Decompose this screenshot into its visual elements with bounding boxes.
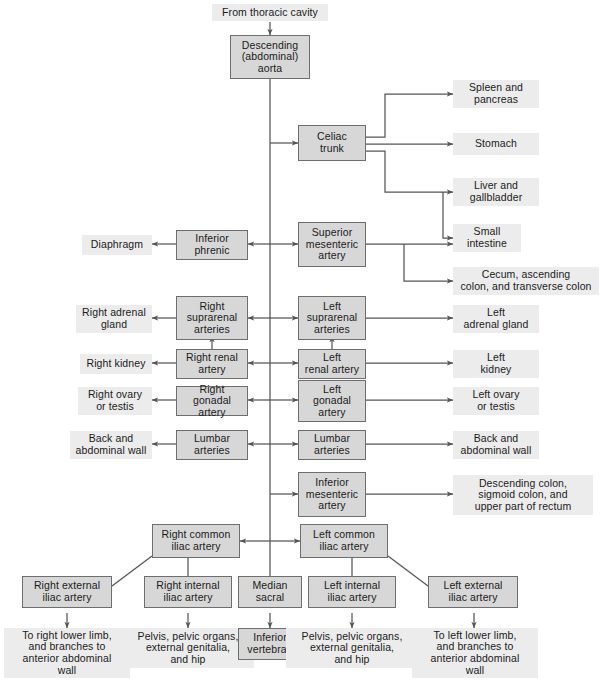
node-left-pelvis: Pelvis, pelvic organs, external genitali… (286, 628, 418, 668)
node-right-internal-iliac[interactable]: Right internal iliac artery (144, 576, 232, 608)
node-right-ovary-testis: Right ovary or testis (78, 387, 152, 415)
node-cecum-colon: Cecum, ascending colon, and transverse c… (453, 267, 599, 295)
node-right-lumbar-arteries[interactable]: Lumbar arteries (176, 430, 248, 460)
node-left-gonadal-artery[interactable]: Left gonadal artery (298, 380, 366, 422)
node-descending-sigmoid-rectum: Descending colon, sigmoid colon, and upp… (453, 475, 593, 515)
node-left-lower-limb: To left lower limb, and branches to ante… (412, 628, 538, 678)
node-celiac-trunk[interactable]: Celiac trunk (298, 125, 366, 161)
node-right-pelvis: Pelvis, pelvic organs, external genitali… (122, 628, 254, 668)
node-left-adrenal-gland: Left adrenal gland (453, 305, 539, 333)
node-right-suprarenal-arteries[interactable]: Right suprarenal arteries (176, 296, 248, 340)
node-right-gonadal-artery[interactable]: Right gonadal artery (176, 386, 248, 416)
node-left-ovary-testis: Left ovary or testis (453, 387, 539, 415)
node-median-sacral[interactable]: Median sacral (238, 576, 302, 608)
node-superior-mesenteric-artery[interactable]: Superior mesenteric artery (298, 222, 366, 267)
node-inferior-phrenic[interactable]: Inferior phrenic (176, 230, 248, 260)
node-descending-aorta[interactable]: Descending (abdominal) aorta (230, 35, 310, 79)
flowchart-canvas: From thoracic cavity Descending (abdomin… (0, 0, 603, 682)
node-left-suprarenal-arteries[interactable]: Left suprarenal arteries (298, 296, 366, 340)
node-left-kidney: Left kidney (453, 350, 539, 378)
node-left-lumbar-arteries[interactable]: Lumbar arteries (298, 430, 366, 460)
node-from-thoracic-cavity: From thoracic cavity (212, 4, 328, 21)
node-right-renal-artery[interactable]: Right renal artery (176, 349, 248, 379)
node-right-kidney: Right kidney (80, 354, 152, 374)
node-liver-gallbladder: Liver and gallbladder (453, 178, 539, 206)
node-spleen-pancreas: Spleen and pancreas (453, 80, 539, 108)
node-right-external-iliac[interactable]: Right external iliac artery (22, 576, 112, 608)
node-left-back-wall: Back and abdominal wall (453, 431, 539, 459)
node-left-external-iliac[interactable]: Left external iliac artery (428, 576, 518, 608)
node-small-intestine: Small intestine (453, 224, 521, 252)
node-diaphragm: Diaphragm (82, 235, 152, 255)
node-right-back-wall: Back and abdominal wall (70, 431, 152, 459)
node-right-common-iliac[interactable]: Right common iliac artery (152, 524, 240, 558)
node-stomach: Stomach (453, 133, 539, 155)
node-right-adrenal-gland: Right adrenal gland (76, 305, 152, 333)
node-right-lower-limb: To right lower limb, and branches to ant… (4, 628, 130, 678)
node-left-renal-artery[interactable]: Left renal artery (298, 349, 366, 379)
node-left-internal-iliac[interactable]: Left internal iliac artery (308, 576, 396, 608)
node-inferior-mesenteric-artery[interactable]: Inferior mesenteric artery (298, 472, 366, 517)
node-left-common-iliac[interactable]: Left common iliac artery (300, 524, 388, 558)
